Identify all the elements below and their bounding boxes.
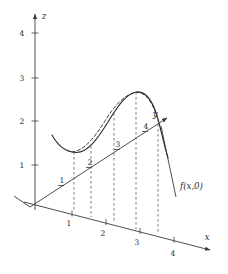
- x-axis-line: [24, 202, 210, 250]
- x-axis-label: x: [205, 232, 210, 242]
- 3d-plot-svg: 4 3 2 1 z 1 2 3 4 x 1: [0, 0, 228, 274]
- function-label: f(x,0): [179, 181, 203, 191]
- function-label-leader: [161, 126, 176, 197]
- y-axis-group: 1 2 3 4 y: [14, 109, 167, 207]
- y-tick-label-4: 4: [144, 122, 149, 131]
- x-tick-label-2: 2: [101, 229, 106, 238]
- z-axis-group: 4 3 2 1 z: [20, 11, 47, 210]
- figure-container: 4 3 2 1 z 1 2 3 4 x 1: [0, 0, 228, 274]
- y-tick-label-3: 3: [116, 140, 121, 149]
- function-curve-group: [52, 92, 168, 158]
- y-tick-label-2: 2: [88, 158, 93, 167]
- z-tick-label-2: 2: [20, 117, 25, 126]
- z-tick-label-3: 3: [20, 74, 25, 83]
- z-axis-label: z: [41, 11, 47, 21]
- y-tick-label-1: 1: [60, 176, 65, 185]
- x-tick-label-3: 3: [135, 238, 140, 247]
- x-tick-label-1: 1: [67, 219, 72, 228]
- function-label-group: f(x,0): [161, 126, 203, 197]
- z-tick-label-4: 4: [20, 29, 25, 38]
- z-tick-label-1: 1: [20, 161, 25, 170]
- x-axis-group: 1 2 3 4 x: [24, 202, 210, 258]
- x-tick-label-4: 4: [171, 249, 176, 258]
- y-axis-back-stub: [14, 196, 30, 207]
